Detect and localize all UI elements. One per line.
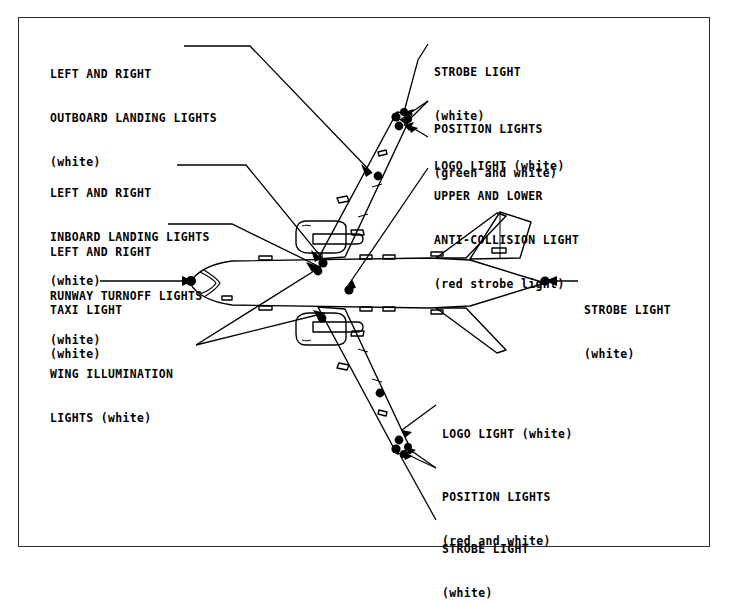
marker-anti-collision-light: [344, 285, 353, 294]
arrow-logo-bottom: [402, 430, 412, 438]
wing-upper: [318, 112, 412, 259]
nacelle-detail-upper: [302, 225, 311, 226]
label-line: LEFT AND RIGHT: [50, 67, 217, 82]
label-logo-light-bottom: LOGO LIGHT (white): [442, 398, 573, 456]
wing-tick-l2: [358, 349, 368, 352]
wing-tick-l1: [372, 379, 382, 382]
label-line: ANTI-COLLISION LIGHT: [434, 233, 579, 248]
marker-position-top-1: [400, 108, 408, 116]
marker-wing-illum-lower: [318, 314, 327, 323]
label-line: STROBE LIGHT: [584, 303, 671, 318]
leader-strobe-top: [404, 44, 428, 112]
label-line: LIGHTS (white): [50, 411, 173, 426]
label-line: (red strobe light): [434, 277, 579, 292]
marker-inboard-landing-light: [318, 258, 327, 267]
wing-tick-u1: [372, 184, 382, 187]
flap-fairing-u2: [337, 196, 349, 203]
label-line: (white): [584, 347, 671, 362]
label-line: LEFT AND RIGHT: [50, 186, 210, 201]
nose-hatch: [222, 296, 232, 300]
stabilizer-lower: [436, 308, 506, 353]
label-line: UPPER AND LOWER: [434, 189, 579, 204]
flap-fairing-l3: [378, 410, 387, 416]
label-line: OUTBOARD LANDING LIGHTS: [50, 111, 217, 126]
label-strobe-light-bottom: STROBE LIGHT (white): [442, 513, 529, 603]
marker-position-bottom-1: [400, 450, 408, 458]
label-wing-illumination-lights: WING ILLUMINATION LIGHTS (white): [50, 338, 173, 440]
marker-logo-bottom: [395, 436, 404, 445]
wing-tick-u2: [358, 214, 368, 217]
label-line: LEFT AND RIGHT: [50, 245, 202, 260]
leader-wing-illum-lower: [196, 313, 325, 345]
marker-strobe-top: [391, 112, 400, 121]
marker-position-bottom-2: [404, 443, 412, 451]
label-anti-collision-light: UPPER AND LOWER ANTI-COLLISION LIGHT (re…: [434, 160, 579, 306]
label-line: TAXI LIGHT: [50, 303, 123, 318]
label-line: WING ILLUMINATION: [50, 367, 173, 382]
label-strobe-light-tail: STROBE LIGHT (white): [584, 274, 671, 376]
marker-anti-collision-lower: [376, 389, 385, 398]
label-line: (white): [442, 586, 529, 601]
fuselage-hatch-l1: [259, 306, 272, 310]
fuselage-hatch-u3: [383, 255, 395, 259]
nacelle-detail-lower: [302, 340, 311, 341]
fuselage-hatch-l3: [383, 307, 395, 311]
fuselage-hatch-l2: [360, 307, 372, 311]
label-line: LOGO LIGHT (white): [442, 427, 573, 442]
marker-logo-top: [395, 122, 404, 131]
flap-fairing-u3: [378, 150, 387, 156]
label-line: POSITION LIGHTS: [442, 490, 551, 505]
marker-strobe-bottom: [391, 444, 400, 453]
flap-fairing-l2: [337, 363, 349, 370]
arrow-logo-top: [408, 125, 418, 133]
wing-lower: [318, 307, 412, 454]
label-line: STROBE LIGHT: [434, 65, 521, 80]
marker-position-top-2: [404, 115, 412, 123]
marker-runway-turnoff-light: [314, 267, 323, 276]
fuselage-hatch-u1: [259, 256, 272, 260]
leader-logo-bottom: [402, 405, 436, 430]
marker-outboard-landing-light: [374, 172, 383, 181]
label-line: STROBE LIGHT: [442, 542, 529, 557]
